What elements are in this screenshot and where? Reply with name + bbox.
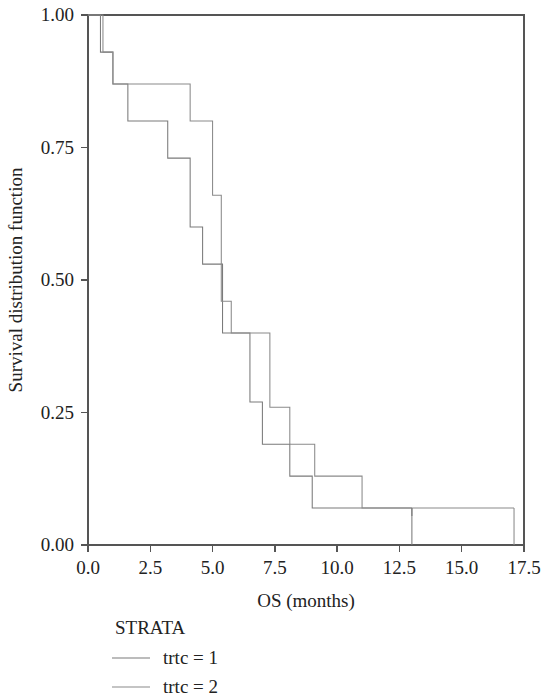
y-tick-label: 0.50 [41,269,74,290]
x-tick-label: 12.5 [383,557,416,578]
x-axis-tick-marks [88,545,524,552]
legend-entries: trtc = 1trtc = 2 [112,647,218,697]
x-tick-label: 15.0 [445,557,478,578]
x-tick-label: 7.5 [263,557,287,578]
y-tick-label: 1.00 [41,4,74,25]
y-axis-tick-marks [81,15,88,545]
km-curve-trtc-2 [88,15,514,508]
y-axis-tick-labels: 0.000.250.500.751.00 [41,4,74,555]
x-tick-label: 2.5 [138,557,162,578]
legend-label-1: trtc = 1 [163,647,218,668]
y-tick-label: 0.25 [41,402,74,423]
legend-label-2: trtc = 2 [163,676,218,697]
survival-plot-figure: 0.02.55.07.510.012.515.017.5 0.000.250.5… [0,0,541,698]
km-curves-group [88,15,514,545]
km-curve-trtc-1 [88,15,412,508]
x-axis-title: OS (months) [257,590,355,612]
legend-title: STRATA [115,617,186,638]
x-tick-label: 0.0 [76,557,100,578]
axes-frame [88,15,524,545]
x-tick-label: 17.5 [507,557,540,578]
y-tick-label: 0.00 [41,534,74,555]
legend: STRATA trtc = 1trtc = 2 [112,617,218,697]
plot-frame [88,15,524,545]
y-axis-title: Survival distribution function [5,167,26,392]
x-tick-label: 5.0 [201,557,225,578]
survival-plot-svg: 0.02.55.07.510.012.515.017.5 0.000.250.5… [0,0,541,698]
y-tick-label: 0.75 [41,137,74,158]
x-tick-label: 10.0 [321,557,354,578]
x-axis-tick-labels: 0.02.55.07.510.012.515.017.5 [76,557,541,578]
